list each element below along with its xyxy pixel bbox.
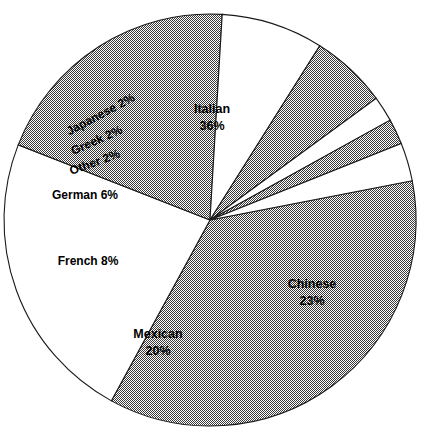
- pie-chart-canvas: Italian36%Chinese23%Mexican20%French 8%G…: [0, 0, 426, 443]
- slice-value-text-italian: 36%: [199, 119, 224, 133]
- slice-label-text-mexican: Mexican: [133, 327, 182, 341]
- slice-label-german: German 6%: [52, 188, 118, 202]
- slice-label-text-italian: Italian: [194, 102, 230, 116]
- slice-label-text-french: French 8%: [58, 254, 119, 268]
- slice-label-text-german: German 6%: [52, 188, 118, 202]
- pie-chart-figure: Italian36%Chinese23%Mexican20%French 8%G…: [0, 0, 426, 443]
- slice-label-french: French 8%: [58, 254, 119, 268]
- pie-slices: [4, 14, 416, 426]
- slice-value-text-mexican: 20%: [145, 344, 170, 358]
- slice-value-text-chinese: 23%: [299, 294, 324, 308]
- slice-label-text-chinese: Chinese: [288, 277, 337, 291]
